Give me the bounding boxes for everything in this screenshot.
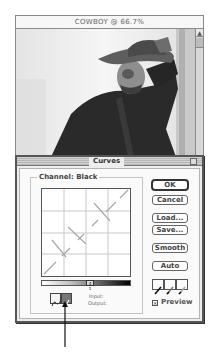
- preview-checkbox[interactable]: ×: [152, 300, 158, 306]
- callout-arrow-icon: [62, 301, 68, 347]
- channel-label: Channel: Black: [37, 172, 99, 182]
- channel-group-box: Channel: Black: [30, 177, 143, 314]
- load-button[interactable]: Load...: [152, 213, 188, 223]
- image-canvas[interactable]: [16, 29, 195, 157]
- save-button[interactable]: Save...: [152, 225, 188, 235]
- document-title: COWBOY @ 66.7%: [75, 18, 144, 26]
- close-box-icon[interactable]: [190, 158, 197, 165]
- white-point-eyedropper-button[interactable]: [176, 279, 188, 290]
- dialog-body: Channel: Black: [19, 168, 200, 319]
- auto-button[interactable]: Auto: [152, 261, 188, 271]
- output-label: Output:: [88, 300, 107, 306]
- cancel-button[interactable]: Cancel: [152, 195, 188, 205]
- ok-button[interactable]: OK: [151, 179, 189, 191]
- black-eyedropper-icon: [153, 286, 163, 295]
- black-point-eyedropper-button[interactable]: [152, 279, 164, 290]
- scroll-up-arrow-icon[interactable]: ▲: [196, 29, 203, 37]
- curves-title: Curves: [89, 157, 124, 166]
- tonal-gradient-bar: 4 1: [41, 280, 131, 286]
- scroll-thumb[interactable]: [196, 38, 203, 48]
- smooth-button[interactable]: Smooth: [152, 243, 188, 253]
- input-label: Input:: [89, 293, 104, 299]
- gradient-position-marker: 4 1: [86, 280, 94, 286]
- gray-eyedropper-icon: [165, 286, 175, 295]
- curve-graph[interactable]: [41, 188, 131, 277]
- cowboy-photo: [16, 29, 195, 157]
- curve-grid: [42, 189, 130, 276]
- preview-label[interactable]: Preview: [161, 298, 193, 306]
- curve-tool-button[interactable]: [50, 293, 61, 304]
- gray-point-eyedropper-button[interactable]: [164, 279, 176, 290]
- curves-dialog: Curves Channel: Black: [15, 155, 204, 323]
- document-title-bar[interactable]: COWBOY @ 66.7%: [16, 16, 203, 29]
- document-window: COWBOY @ 66.7%: [15, 15, 204, 157]
- curves-title-bar[interactable]: Curves: [17, 157, 202, 166]
- vertical-scrollbar[interactable]: ▲: [195, 29, 203, 157]
- white-eyedropper-icon: [177, 286, 187, 295]
